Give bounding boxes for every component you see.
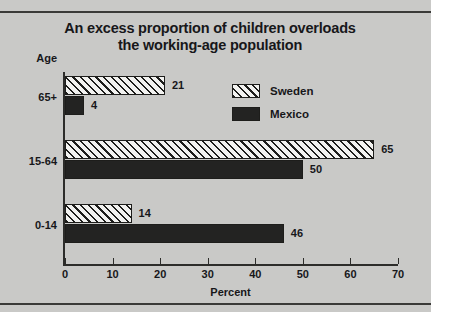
legend-label-sweden: Sweden (270, 85, 313, 97)
x-tick-70 (398, 258, 399, 264)
y-axis-category-0-14: 0-14 (35, 219, 57, 231)
bar-mexico-15-64 (65, 160, 303, 179)
bar-sweden-15-64 (65, 140, 374, 159)
chart-figure: An excess proportion of children overloa… (0, 0, 449, 320)
x-tick-label-20: 20 (154, 268, 166, 280)
bar-value-mexico-0-14: 46 (291, 224, 303, 243)
x-tick-label-30: 30 (202, 268, 214, 280)
x-tick-label-70: 70 (392, 268, 404, 280)
legend-swatch-mexico (232, 107, 260, 121)
page-margin-right (431, 0, 449, 320)
x-tick-label-0: 0 (62, 268, 68, 280)
bar-sweden-0-14 (65, 204, 132, 223)
x-tick-label-40: 40 (249, 268, 261, 280)
x-tick-0 (65, 258, 66, 264)
x-tick-50 (303, 258, 304, 264)
legend-label-mexico: Mexico (270, 108, 309, 120)
chart-title: An excess proportion of children overloa… (0, 20, 420, 54)
legend-item-sweden: Sweden (232, 83, 352, 99)
x-tick-label-50: 50 (297, 268, 309, 280)
bar-value-sweden-65+: 21 (172, 76, 184, 95)
chart-legend: SwedenMexico (232, 83, 352, 129)
bar-mexico-0-14 (65, 224, 284, 243)
x-tick-30 (208, 258, 209, 264)
x-tick-label-10: 10 (106, 268, 118, 280)
top-rule (0, 11, 432, 13)
legend-item-mexico: Mexico (232, 106, 352, 122)
x-tick-40 (255, 258, 256, 264)
x-tick-20 (160, 258, 161, 264)
bar-mexico-65+ (65, 96, 84, 115)
bar-value-mexico-15-64: 50 (310, 160, 322, 179)
x-tick-10 (113, 258, 114, 264)
legend-swatch-sweden (232, 84, 260, 98)
x-axis-label: Percent (63, 286, 398, 298)
bottom-rule (0, 303, 449, 305)
y-axis-category-15-64: 15-64 (29, 155, 57, 167)
bar-sweden-65+ (65, 76, 165, 95)
x-tick-label-60: 60 (344, 268, 356, 280)
page-margin-bottom (0, 312, 449, 320)
y-axis-category-65+: 65+ (38, 91, 57, 103)
y-axis-title: Age (0, 52, 57, 64)
chart-title-line-2: the working-age population (0, 37, 420, 54)
x-tick-60 (350, 258, 351, 264)
bar-value-mexico-65+: 4 (91, 96, 97, 115)
x-axis-line (63, 264, 398, 266)
bar-value-sweden-15-64: 65 (381, 140, 393, 159)
y-axis-category-labels: 65+15-640-14 (0, 72, 65, 264)
chart-title-line-1: An excess proportion of children overloa… (64, 20, 355, 36)
bar-value-sweden-0-14: 14 (139, 204, 151, 223)
